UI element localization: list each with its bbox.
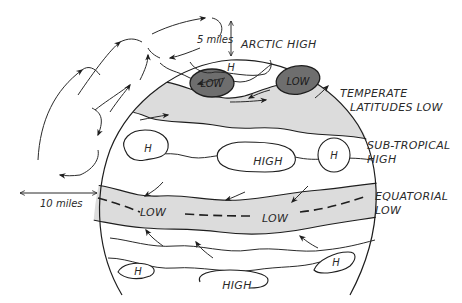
subtropical-label-line1: SUB-TROPICAL	[367, 139, 450, 152]
subtropical-high-center-label: HIGH	[253, 155, 283, 168]
southern-high-center-label: HIGH	[222, 279, 252, 292]
temperate-low-left-label: LOW	[200, 78, 224, 89]
equatorial-low-left-label: LOW	[140, 206, 167, 219]
vertical-scale-label: 5 miles	[197, 34, 233, 45]
horizontal-scale-label: 10 miles	[40, 198, 83, 209]
subtropical-label-line2: HIGH	[367, 153, 397, 166]
arctic-high-label: ARCTIC HIGH	[240, 38, 317, 51]
equatorial-low-right-label: LOW	[262, 212, 289, 225]
equatorial-low-band	[92, 182, 390, 234]
temperate-low-right-label: LOW	[286, 76, 310, 87]
atmospheric-circulation-diagram: LOW LOW H H HIGH H LOW LOW H HIGH H	[0, 0, 462, 303]
temperate-label-line1: TEMPERATE	[340, 87, 407, 100]
equatorial-label-line2: LOW	[375, 204, 402, 217]
subtropical-h-right-label: H	[330, 150, 338, 161]
subtropical-h-left-label: H	[144, 143, 152, 154]
diagram-canvas: LOW LOW H H HIGH H LOW LOW H HIGH H	[0, 0, 462, 303]
equatorial-label-line1: EQUATORIAL	[375, 190, 448, 203]
arctic-h-label: H	[227, 62, 235, 73]
southern-h-left-label: H	[134, 266, 142, 277]
temperate-label-line2: LATITUDES LOW	[350, 101, 444, 114]
southern-h-right-label: H	[332, 257, 340, 268]
